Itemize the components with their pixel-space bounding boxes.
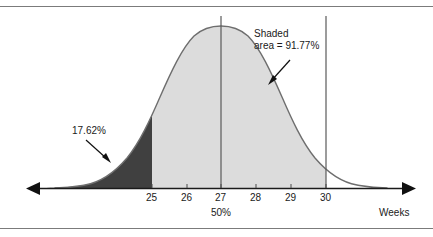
x-axis-title: Weeks (379, 207, 409, 218)
annotation-shaded-line2: area = 91.77% (254, 40, 319, 52)
tick-label-28: 28 (250, 192, 261, 203)
tick-label-27: 27 (215, 192, 226, 203)
tick-label-26: 26 (181, 192, 192, 203)
tick-label-25: 25 (146, 192, 157, 203)
tick-label-29: 29 (285, 192, 296, 203)
annotation-shaded-line1: Shaded (254, 28, 319, 40)
annotation-arrow-tail (86, 140, 111, 163)
figure-container: Shaded area = 91.77% 17.62% 25 26 27 28 … (0, 0, 433, 237)
axis-arrow-right (402, 182, 416, 195)
annotation-tail-percent: 17.62% (72, 125, 106, 136)
axis-arrow-left (26, 182, 40, 195)
annotation-shaded-area: Shaded area = 91.77% (254, 28, 319, 52)
center-percent-label: 50% (211, 207, 231, 218)
tick-label-30: 30 (320, 192, 331, 203)
